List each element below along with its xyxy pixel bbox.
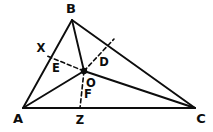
point-o-dot — [81, 68, 87, 74]
segment-a-o — [23, 71, 84, 108]
vertex-label-a: A — [13, 111, 23, 126]
point-label-d: D — [99, 55, 109, 69]
segment-ac-shadow — [25, 106, 193, 107]
vertex-label-c: C — [196, 111, 206, 126]
point-label-z: Z — [76, 113, 84, 127]
segment-ab — [23, 20, 72, 108]
geometry-canvas: A B C D E F O X Z — [0, 0, 213, 132]
segment-o-c — [84, 71, 195, 108]
geometry-figure: A B C D E F O X Z — [0, 0, 213, 132]
point-label-e: E — [52, 61, 60, 75]
point-label-x: X — [37, 41, 46, 55]
vertex-label-b: B — [66, 1, 76, 16]
point-label-o: O — [86, 76, 96, 90]
